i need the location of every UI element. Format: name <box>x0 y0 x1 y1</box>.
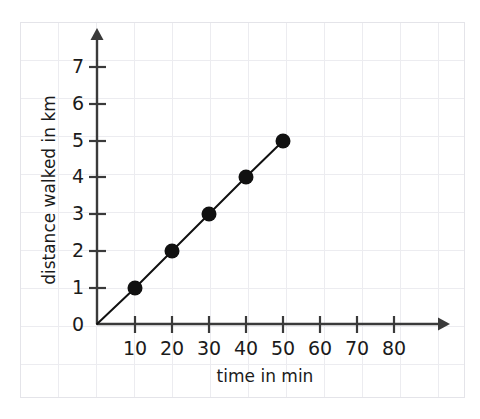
y-tick-label: 4 <box>72 165 84 187</box>
origin-label: 0 <box>72 313 84 335</box>
x-tick-label: 60 <box>308 337 332 359</box>
data-point[interactable] <box>276 134 291 149</box>
x-tick-label: 80 <box>382 337 406 359</box>
data-point[interactable] <box>202 207 217 222</box>
y-tick-label: 7 <box>72 55 84 77</box>
data-point[interactable] <box>128 281 143 296</box>
x-tick-label: 30 <box>197 337 221 359</box>
x-tick-label: 70 <box>345 337 369 359</box>
y-tick-label: 1 <box>72 276 84 298</box>
y-tick-label: 5 <box>72 129 84 151</box>
data-point[interactable] <box>239 170 254 185</box>
x-tick-label: 40 <box>234 337 258 359</box>
line-chart-figure: 10 20 30 40 50 60 70 80 1 2 3 4 5 6 <box>0 0 480 419</box>
x-tick-label: 10 <box>123 337 147 359</box>
data-point[interactable] <box>165 244 180 259</box>
y-axis-title: distance walked in km <box>39 95 59 285</box>
chart-canvas: 10 20 30 40 50 60 70 80 1 2 3 4 5 6 <box>0 0 480 419</box>
x-axis-title: time in min <box>217 366 314 386</box>
y-tick-label: 2 <box>72 239 84 261</box>
y-tick-label: 3 <box>72 202 84 224</box>
y-tick-label: 6 <box>72 92 84 114</box>
x-tick-label: 20 <box>160 337 184 359</box>
x-tick-label: 50 <box>271 337 295 359</box>
